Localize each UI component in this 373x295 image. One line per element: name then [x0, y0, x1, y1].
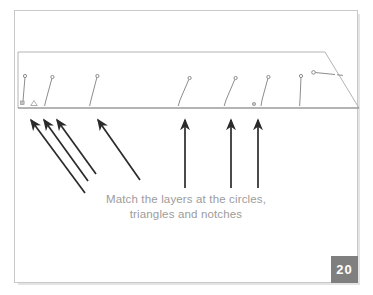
pin-notch-3 [178, 76, 191, 106]
pin-notch-2 [90, 74, 99, 106]
instruction-caption: Match the layers at the circles, triangl… [36, 192, 336, 222]
pin-triangle-1 [31, 101, 37, 106]
caption-line-1: Match the layers at the circles, [36, 192, 336, 207]
layer-alignment-diagram [0, 0, 373, 295]
caption-line-2: triangles and notches [36, 207, 336, 222]
arrow-diagonal-1 [31, 120, 85, 193]
arrow-diagonal-group [31, 120, 140, 193]
pin-marker-group [21, 71, 344, 106]
pin-circle-1 [252, 75, 270, 106]
pin-notch-5 [299, 74, 302, 106]
arrow-diagonal-4 [98, 120, 140, 180]
pin-notch-4 [224, 76, 237, 106]
page-number-badge: 20 [331, 256, 358, 283]
pin-square-1 [21, 74, 27, 104]
page-canvas: Match the layers at the circles, triangl… [0, 0, 373, 295]
arrow-vertical-group [185, 120, 258, 188]
pin-notch-1 [45, 75, 54, 106]
arrow-diagonal-2 [44, 120, 88, 181]
